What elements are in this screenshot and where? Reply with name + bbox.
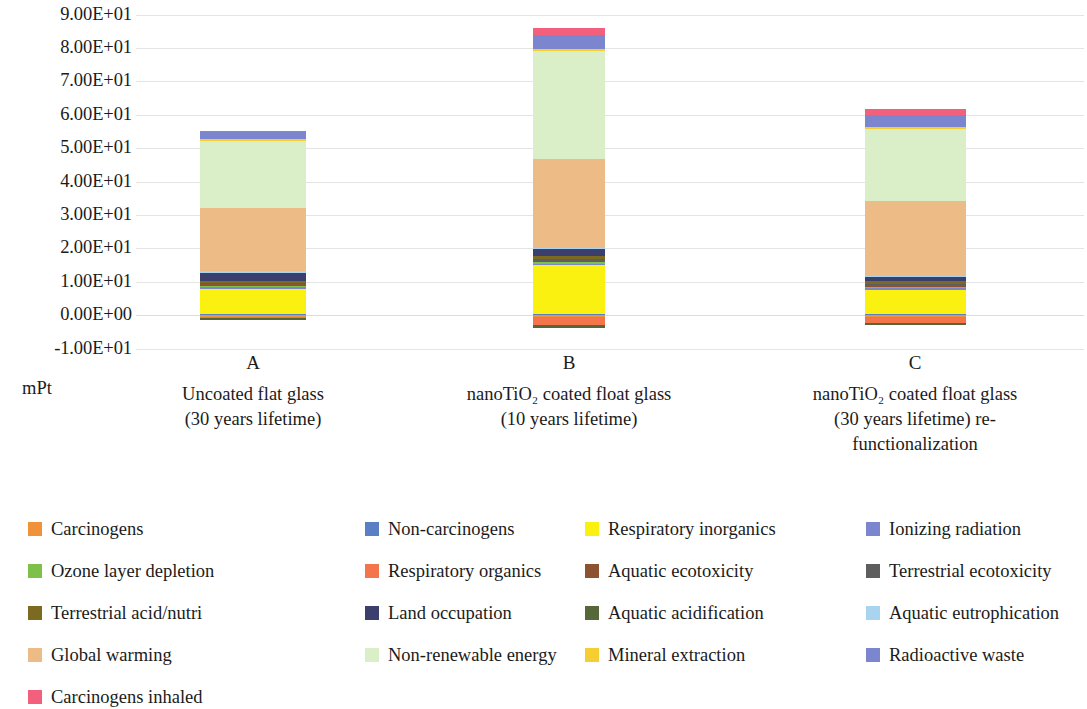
legend-swatch-icon (365, 648, 379, 662)
bar-segment (865, 127, 966, 129)
bar-segment (865, 317, 966, 324)
y-axis-tick-label: 1.00E+01 (60, 272, 132, 290)
bar-segment (533, 248, 605, 250)
bar-segment (533, 265, 605, 313)
bar-segment (200, 289, 306, 314)
bar-segment (865, 314, 966, 316)
stacked-bar-c[interactable] (865, 0, 966, 400)
bar-segment (200, 287, 306, 289)
legend-label: Aquatic acidification (608, 603, 764, 623)
y-axis-unit-label: mPt (22, 378, 52, 399)
legend-item[interactable]: Respiratory inorganics (585, 519, 776, 539)
legend-swatch-icon (585, 606, 599, 620)
legend-item[interactable]: Mineral extraction (585, 645, 745, 665)
legend-label: Terrestrial ecotoxicity (889, 561, 1052, 581)
bar-segment (533, 28, 605, 35)
bar-segment (865, 284, 966, 286)
legend-label: Aquatic eutrophication (889, 603, 1059, 623)
legend-swatch-icon (866, 606, 880, 620)
bar-segment (533, 249, 605, 256)
legend-label: Global warming (51, 645, 172, 665)
legend-swatch-icon (866, 564, 880, 578)
y-axis-tick-label: 9.00E+01 (60, 5, 132, 23)
legend-item[interactable]: Radioactive waste (866, 645, 1024, 665)
legend-item[interactable]: Land occupation (365, 603, 512, 623)
bar-segment (200, 271, 306, 273)
category-label-b: BnanoTiO₂ coated float glass(10 years li… (419, 352, 719, 432)
category-letter: C (765, 352, 1065, 374)
bar-segment (533, 314, 605, 316)
legend-label: Non-carcinogens (388, 519, 514, 539)
legend-label: Terrestrial acid/nutri (51, 603, 202, 623)
bar-segment (865, 288, 966, 290)
legend-swatch-icon (28, 522, 42, 536)
category-label-a: AUncoated flat glass(30 years lifetime) (123, 352, 383, 432)
stacked-bar-a[interactable] (200, 0, 306, 400)
bar-segment (865, 285, 966, 287)
legend-swatch-icon (585, 522, 599, 536)
legend-item[interactable]: Ionizing radiation (866, 519, 1021, 539)
stacked-bar-b[interactable] (533, 0, 605, 400)
legend-swatch-icon (28, 564, 42, 578)
y-axis-tick-label: 4.00E+01 (60, 172, 132, 190)
bar-segment (533, 261, 605, 263)
bar-segment (533, 256, 605, 259)
category-letter: B (419, 352, 719, 374)
legend-item[interactable]: Carcinogens (28, 519, 143, 539)
bar-segment (865, 109, 966, 115)
legend-swatch-icon (866, 648, 880, 662)
category-description-line: (10 years lifetime) (419, 407, 719, 432)
legend-label: Carcinogens inhaled (51, 687, 203, 707)
bar-segment (865, 277, 966, 281)
legend-label: Respiratory inorganics (608, 519, 776, 539)
bar-segment (865, 276, 966, 278)
legend-label: Respiratory organics (388, 561, 541, 581)
legend-item[interactable]: Ozone layer depletion (28, 561, 214, 581)
bar-segment (533, 259, 605, 261)
y-axis-tick-label: 2.00E+01 (60, 238, 132, 256)
y-axis-tick-label: 5.00E+01 (60, 138, 132, 156)
legend-item[interactable]: Aquatic acidification (585, 603, 764, 623)
bar-segment (533, 325, 605, 328)
legend-swatch-icon (365, 606, 379, 620)
category-description-line: Uncoated flat glass (123, 382, 383, 407)
legend-item[interactable]: Non-carcinogens (365, 519, 514, 539)
bar-segment (200, 208, 306, 271)
legend-item[interactable]: Aquatic eutrophication (866, 603, 1059, 623)
legend-label: Ionizing radiation (889, 519, 1021, 539)
bar-segment (200, 131, 306, 133)
bar-segment (200, 139, 306, 141)
bar-segment (533, 51, 605, 160)
bar-segment (533, 159, 605, 248)
legend-label: Radioactive waste (889, 645, 1024, 665)
legend-label: Aquatic ecotoxicity (608, 561, 753, 581)
chart-legend: CarcinogensNon-carcinogensRespiratory in… (28, 519, 1087, 704)
y-axis-tick-labels: 9.00E+018.00E+017.00E+016.00E+015.00E+01… (0, 0, 132, 400)
legend-item[interactable]: Carcinogens inhaled (28, 687, 203, 707)
category-description-line: functionalization (765, 432, 1065, 457)
plot-area: 9.00E+018.00E+017.00E+016.00E+015.00E+01… (0, 0, 1087, 505)
category-label-c: CnanoTiO₂ coated float glass(30 years li… (765, 352, 1065, 457)
legend-swatch-icon (866, 522, 880, 536)
y-axis-tick-label: 7.00E+01 (60, 71, 132, 89)
legend-item[interactable]: Terrestrial ecotoxicity (866, 561, 1052, 581)
bar-segment (865, 323, 966, 325)
bar-segment (200, 273, 306, 281)
legend-item[interactable]: Aquatic ecotoxicity (585, 561, 753, 581)
bar-segment (865, 129, 966, 201)
legend-swatch-icon (365, 522, 379, 536)
y-axis-tick-label: -1.00E+01 (54, 339, 132, 357)
bar-segment (865, 201, 966, 276)
category-description-line: (30 years lifetime) (123, 407, 383, 432)
legend-item[interactable]: Respiratory organics (365, 561, 541, 581)
legend-label: Land occupation (388, 603, 512, 623)
legend-label: Ozone layer depletion (51, 561, 214, 581)
legend-item[interactable]: Global warming (28, 645, 172, 665)
category-letter: A (123, 352, 383, 374)
legend-item[interactable]: Non-renewable energy (365, 645, 557, 665)
legend-label: Mineral extraction (608, 645, 745, 665)
category-description-line: nanoTiO₂ coated float glass (419, 382, 719, 407)
bar-segment (200, 132, 306, 139)
bar-segment (865, 287, 966, 289)
legend-item[interactable]: Terrestrial acid/nutri (28, 603, 202, 623)
